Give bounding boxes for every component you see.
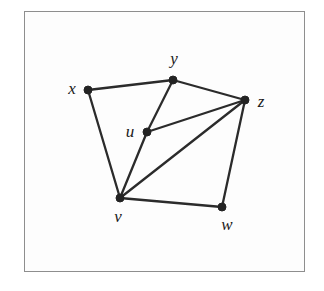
graph-vertex-v (116, 194, 124, 202)
vertex-label-x: x (68, 80, 76, 97)
vertex-label-w: w (221, 216, 232, 233)
graph-vertex-x (84, 86, 92, 94)
vertex-label-u: u (126, 123, 135, 140)
vertex-label-z: z (258, 93, 265, 110)
graph-vertex-z (241, 96, 249, 104)
graph-edge-x-y (88, 80, 173, 90)
graph-vertex-u (143, 128, 151, 136)
graph-vertices-group (84, 76, 249, 211)
graph-canvas (0, 0, 324, 291)
graph-edge-x-v (88, 90, 120, 198)
graph-edges-group (88, 80, 245, 207)
graph-vertex-w (218, 203, 226, 211)
graph-edge-v-w (120, 198, 222, 207)
graph-vertex-y (169, 76, 177, 84)
figure-root: xyzuvw (0, 0, 324, 291)
graph-edge-y-z (173, 80, 245, 100)
vertex-label-y: y (170, 50, 178, 67)
vertex-label-v: v (114, 208, 122, 225)
